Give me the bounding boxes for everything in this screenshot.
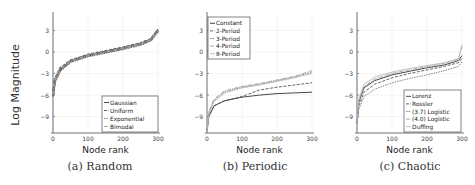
- series-line: [207, 92, 312, 131]
- legend-entry: 3-Period: [216, 36, 240, 42]
- legend-entry: Rossler: [412, 101, 434, 107]
- y-tick-label: −9: [40, 113, 49, 120]
- legend-entry: Duffing: [412, 124, 433, 131]
- x-tick-label: 100: [82, 135, 94, 142]
- y-tick-label: 3: [199, 27, 203, 34]
- y-tick-label: −6: [40, 92, 49, 99]
- x-tick-label: 0: [205, 135, 209, 142]
- x-tick-label: 0: [51, 135, 55, 142]
- panel-periodic: 30−3−6−90100200300Node rankConstant2-Per…: [160, 0, 320, 185]
- caption-chaotic: (c) Chaotic: [350, 160, 470, 173]
- panel-random: 30−3−6−90100200300Node rankGaussianUnifo…: [0, 0, 165, 185]
- y-tick-label: 3: [45, 27, 49, 34]
- legend-entry: Gaussian: [110, 100, 137, 106]
- y-tick-label: −3: [344, 70, 353, 77]
- x-tick-label: 200: [117, 135, 129, 142]
- x-tick-label: 300: [456, 135, 468, 142]
- legend-entry: (4.0) Logistic: [412, 116, 450, 123]
- series-line: [207, 71, 312, 131]
- y-tick-label: −9: [194, 113, 203, 120]
- y-tick-label: −6: [344, 92, 353, 99]
- y-tick-label: 0: [349, 48, 353, 55]
- y-tick-label: 0: [45, 48, 49, 55]
- x-tick-label: 0: [355, 135, 359, 142]
- y-tick-label: −3: [40, 70, 49, 77]
- legend-entry: 8-Period: [216, 51, 240, 57]
- legend-entry: Exponential: [110, 116, 145, 123]
- legend-entry: (3.7) Logistic: [412, 109, 450, 116]
- legend-entry: 4-Period: [216, 43, 240, 49]
- legend-entry: Uniform: [110, 108, 133, 114]
- legend-entry: Bimodal: [110, 124, 134, 130]
- legend-entry: 2-Period: [216, 28, 240, 34]
- y-tick-label: −6: [194, 92, 203, 99]
- x-tick-label: 200: [421, 135, 433, 142]
- y-tick-label: −9: [344, 113, 353, 120]
- x-axis-label: Node rank: [82, 145, 129, 155]
- legend-entry: Constant: [216, 20, 243, 26]
- x-axis-label: Node rank: [236, 145, 283, 155]
- caption-periodic: (b) Periodic: [195, 160, 315, 173]
- x-tick-label: 100: [236, 135, 248, 142]
- y-tick-label: 0: [199, 48, 203, 55]
- x-tick-label: 200: [271, 135, 283, 142]
- series-line: [207, 74, 312, 132]
- panel-chaotic: 30−3−6−90100200300Node rankLorenzRossler…: [315, 0, 475, 185]
- x-axis-label: Node rank: [386, 145, 433, 155]
- series-line: [207, 83, 312, 131]
- y-tick-label: 3: [349, 27, 353, 34]
- x-tick-label: 100: [386, 135, 398, 142]
- series-line: [53, 30, 158, 94]
- legend-entry: Lorenz: [412, 93, 431, 99]
- y-tick-label: −3: [194, 70, 203, 77]
- caption-random: (a) Random: [40, 160, 160, 173]
